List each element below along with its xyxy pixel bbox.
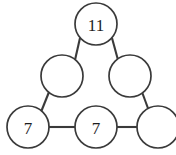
node-label-bottom-middle: 7	[92, 119, 101, 138]
node-bottom-middle[interactable]: 7	[75, 106, 117, 148]
edge-apex-to-mid-right	[112, 38, 118, 60]
node-label-bottom-left: 7	[24, 119, 33, 138]
node-circle-mid-left[interactable]	[41, 55, 83, 97]
node-label-apex: 11	[88, 16, 104, 35]
node-bottom-left[interactable]: 7	[7, 106, 49, 148]
node-mid-left[interactable]	[41, 55, 83, 97]
triangle-number-puzzle-figure: 1177	[0, 0, 176, 155]
edge-apex-to-mid-left	[75, 38, 80, 60]
puzzle-canvas: 1177	[0, 0, 176, 155]
node-apex[interactable]: 11	[75, 3, 117, 45]
edge-mid-left-to-bottom-left	[41, 92, 49, 112]
node-circle-bottom-right[interactable]	[137, 106, 176, 148]
node-bottom-right[interactable]	[137, 106, 176, 148]
node-mid-right[interactable]	[109, 55, 151, 97]
nodes-layer: 1177	[7, 3, 176, 148]
node-circle-mid-right[interactable]	[109, 55, 151, 97]
